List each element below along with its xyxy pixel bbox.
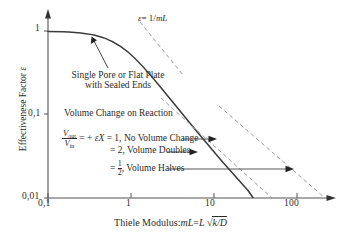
sqrt-symbol-icon: √k/D — [207, 216, 227, 228]
single-pore-pointer-arrowhead — [91, 36, 97, 44]
annotation-volume-case-2: = 2, Volume Doubles — [110, 146, 191, 156]
x-axis-title-L: L — [199, 217, 205, 228]
annotation-volume-case-half: = 1 2 , Volume Halves — [110, 160, 184, 177]
case2-text: Volume Doubles — [127, 145, 190, 155]
y-tick-label-1: 1 — [35, 24, 40, 34]
dashed-asymptote-eps-1-over-mL — [140, 22, 183, 75]
y-axis-title: Effectivenese Factor ε — [19, 19, 29, 199]
y-axis-title-text: Effectivenese Factor — [18, 73, 28, 151]
leader-arrow-no-volume-change-head — [209, 136, 218, 142]
y-tick-label-0.1: 0,1 — [28, 109, 40, 119]
one-half-fraction: 1 2 — [118, 160, 122, 177]
annotation-single-pore: Single Pore or Flat Plate with Sealed En… — [62, 71, 174, 91]
x-tick-label-1: 1 — [126, 199, 131, 209]
dashed-asymptote-volume-halves — [219, 106, 325, 198]
x-tick-label-0.1: 0,1 — [38, 199, 50, 209]
case1-eq-plus: = + — [79, 133, 92, 143]
annotation-eps-asymptote: ε= 1/mL — [138, 14, 167, 23]
case1-epsX-symbol: εX — [95, 133, 105, 143]
case3-text: , Volume Halves — [122, 163, 185, 173]
eps-eq-text: = 1/ — [142, 13, 156, 23]
x-axis-arrowhead — [327, 195, 337, 201]
v-out-over-v-in-fraction: Vout Vin — [62, 129, 77, 149]
one-half-denominator: 2 — [118, 168, 122, 177]
case2-value: = 2, — [110, 145, 125, 155]
single-pore-line-2: with Sealed Ends — [62, 81, 174, 91]
x-axis-title-name: Thiele Modulus — [114, 217, 178, 228]
annotation-volume-change-heading: Volume Change on Reaction — [64, 109, 173, 119]
single-pore-pointer-line — [94, 41, 108, 68]
y-axis-arrowhead — [45, 9, 51, 19]
one-half-numerator: 1 — [118, 160, 122, 168]
x-axis-title-radicand: k/D — [212, 216, 226, 228]
case1-text: No Volume Change — [124, 133, 199, 143]
v-in-subscript: in — [70, 143, 75, 149]
x-axis-title: Thiele Modulus:mL=L √k/D — [0, 216, 341, 228]
eps-mL-symbol: mL — [156, 13, 168, 23]
chart-figure: 0,1 1 10 100 1 0,1 0,01 Thiele Modulus:m… — [0, 0, 341, 235]
case3-eq: = — [110, 163, 115, 173]
x-tick-label-10: 10 — [205, 199, 215, 209]
x-axis-title-mL: mL — [180, 217, 193, 228]
case1-value: = 1, — [107, 133, 122, 143]
y-axis-title-symbol: ε — [18, 67, 28, 71]
x-tick-label-100: 100 — [284, 199, 299, 209]
